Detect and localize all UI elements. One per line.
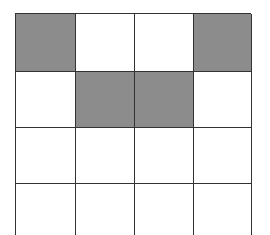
empty-cell-r4-c2 — [76, 184, 135, 235]
empty-cell-r3-c1 — [16, 128, 76, 184]
empty-cell-r3-c3 — [135, 128, 194, 184]
empty-cell-r3-c4 — [194, 128, 252, 184]
empty-cell-r1-c2 — [76, 14, 135, 72]
empty-cell-r2-c4 — [194, 72, 252, 128]
filled-cell-r1-c1 — [16, 14, 76, 72]
empty-cell-r4-c1 — [16, 184, 76, 235]
empty-cell-r3-c2 — [76, 128, 135, 184]
grid-4x4 — [15, 13, 251, 235]
empty-cell-r2-c1 — [16, 72, 76, 128]
empty-cell-r1-c3 — [135, 14, 194, 72]
filled-cell-r1-c4 — [194, 14, 252, 72]
empty-cell-r4-c3 — [135, 184, 194, 235]
filled-cell-r2-c2 — [76, 72, 135, 128]
filled-cell-r2-c3 — [135, 72, 194, 128]
empty-cell-r4-c4 — [194, 184, 252, 235]
